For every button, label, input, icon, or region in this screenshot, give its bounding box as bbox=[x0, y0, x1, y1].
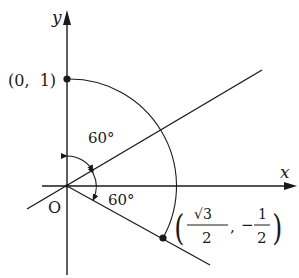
paren-open: ( bbox=[174, 207, 184, 248]
y-denominator: 2 bbox=[257, 229, 267, 247]
y-axis bbox=[63, 10, 71, 275]
point-0-1-label: (0, 1) bbox=[8, 71, 56, 90]
point-rotated bbox=[159, 234, 166, 241]
point-rotated-label: ( √3 2 , − 1 2 ) bbox=[174, 206, 282, 248]
y-axis-label: y bbox=[51, 7, 62, 27]
lower-angle-label: 60° bbox=[108, 191, 135, 209]
line-30-degrees bbox=[27, 70, 262, 209]
y-axis-arrow-icon bbox=[63, 10, 71, 25]
upper-angle-label: 60° bbox=[88, 129, 115, 147]
x-denominator: 2 bbox=[202, 229, 212, 247]
separator: , bbox=[230, 218, 235, 236]
point-0-1 bbox=[63, 75, 70, 82]
x-numerator: √3 bbox=[194, 206, 212, 222]
x-axis bbox=[42, 182, 297, 190]
y-numerator: 1 bbox=[258, 206, 267, 222]
origin-point bbox=[65, 184, 69, 188]
x-axis-label: x bbox=[280, 162, 290, 182]
diagram-canvas: y x O (0, 1) 60° 60° ( √3 2 , − 1 2 ) bbox=[0, 0, 299, 278]
y-sign: − bbox=[241, 216, 254, 234]
origin-label: O bbox=[48, 198, 61, 217]
upper-angle-arc bbox=[67, 156, 93, 171]
paren-close: ) bbox=[272, 207, 282, 248]
unit-circle-arc bbox=[67, 79, 177, 238]
x-axis-arrow-icon bbox=[284, 182, 297, 190]
